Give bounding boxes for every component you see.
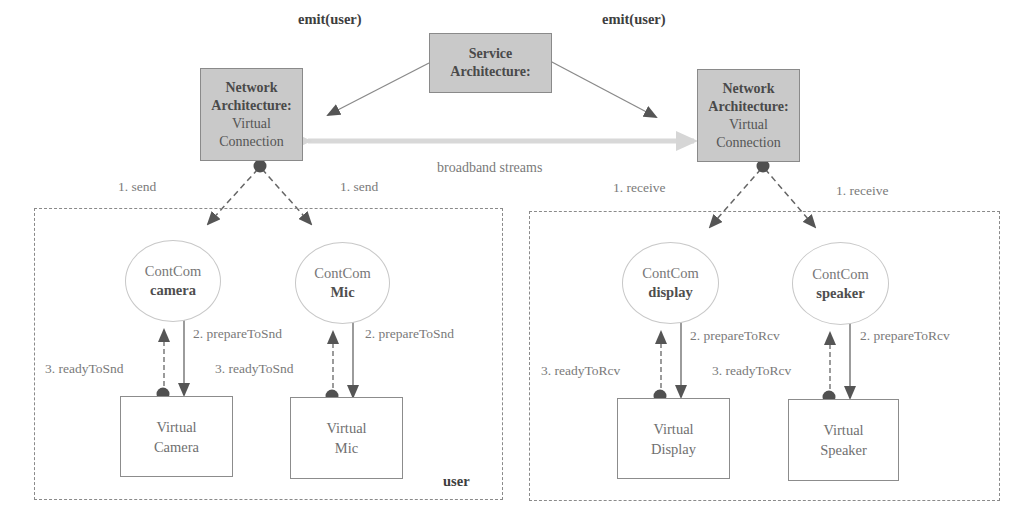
receiver-region — [529, 211, 1000, 501]
ready-label-display: 3. readyToRcv — [541, 363, 620, 379]
network-right-line4: Connection — [698, 134, 799, 152]
network-architecture-left: Network Architecture: Virtual Connection — [200, 68, 303, 161]
contcom-mic-node: ContCom Mic — [295, 242, 390, 324]
network-right-line1: Network — [698, 80, 799, 98]
network-right-line2: Architecture: — [698, 98, 799, 116]
contcom-title: ContCom — [793, 265, 888, 284]
send-label-right: 1. send — [340, 179, 378, 195]
device-line2: Speaker — [789, 440, 898, 460]
device-line1: Virtual — [789, 420, 898, 440]
contcom-title: ContCom — [126, 262, 220, 281]
network-left-line3: Virtual — [201, 115, 302, 133]
send-label-left: 1. send — [118, 179, 156, 195]
contcom-speaker-node: ContCom speaker — [792, 242, 889, 325]
network-left-line2: Architecture: — [201, 97, 302, 115]
ready-label-mic: 3. readyToSnd — [215, 361, 294, 377]
virtual-camera-device: Virtual Camera — [120, 396, 233, 477]
sender-region — [34, 208, 503, 500]
device-line2: Camera — [121, 437, 232, 457]
service-architecture-node: Service Architecture: — [429, 33, 552, 93]
virtual-display-device: Virtual Display — [617, 398, 730, 479]
contcom-name: speaker — [793, 284, 888, 303]
contcom-camera-node: ContCom camera — [125, 240, 221, 322]
contcom-title: ContCom — [623, 264, 718, 283]
connection-port-left — [254, 160, 267, 173]
network-left-line1: Network — [201, 79, 302, 97]
virtual-speaker-device: Virtual Speaker — [788, 399, 899, 481]
prepare-label-mic: 2. prepareToSnd — [365, 326, 454, 342]
network-left-line4: Connection — [201, 133, 302, 151]
network-right-line3: Virtual — [698, 116, 799, 134]
ready-label-speaker: 3. readyToRcv — [712, 363, 791, 379]
prepare-label-speaker: 2. prepareToRcv — [860, 328, 950, 344]
device-line1: Virtual — [291, 418, 402, 438]
emit-arrow-left — [328, 63, 429, 115]
emit-label-left: emit(user) — [298, 11, 362, 28]
device-line1: Virtual — [618, 419, 729, 439]
broadband-label: broadband streams — [437, 160, 542, 176]
contcom-name: display — [623, 283, 718, 302]
prepare-label-display: 2. prepareToRcv — [690, 328, 780, 344]
user-region-label: user — [443, 473, 470, 490]
contcom-name: camera — [126, 281, 220, 300]
contcom-display-node: ContCom display — [622, 242, 719, 324]
prepare-label-camera: 2. prepareToSnd — [193, 326, 282, 342]
device-line1: Virtual — [121, 417, 232, 437]
device-line2: Display — [618, 439, 729, 459]
contcom-name: Mic — [296, 283, 389, 302]
device-line2: Mic — [291, 438, 402, 458]
receive-label-right: 1. receive — [836, 183, 888, 199]
ready-label-camera: 3. readyToSnd — [45, 361, 124, 377]
network-architecture-right: Network Architecture: Virtual Connection — [697, 69, 800, 162]
contcom-title: ContCom — [296, 264, 389, 283]
emit-arrow-right — [550, 61, 656, 117]
service-line2: Architecture: — [430, 63, 551, 81]
receive-label-left: 1. receive — [613, 180, 665, 196]
emit-label-right: emit(user) — [602, 11, 666, 28]
virtual-mic-device: Virtual Mic — [290, 397, 403, 479]
service-line1: Service — [430, 45, 551, 63]
